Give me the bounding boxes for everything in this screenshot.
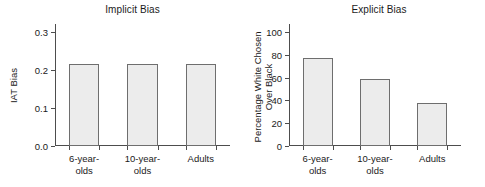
bar [186, 64, 216, 146]
bar [417, 103, 447, 146]
x-axis-label-line: olds [55, 165, 113, 177]
y-tick-label: 0 [277, 141, 282, 152]
y-tick-label: 0.0 [35, 141, 48, 152]
chart-panel-implicit-bias: Implicit Bias IAT Bias 6-year-olds10-yea… [0, 0, 243, 187]
x-tick-mark [390, 146, 391, 150]
x-axis-label-line: olds [113, 165, 171, 177]
x-axis-label-line: 10-year- [113, 153, 171, 165]
y-tick-mark [51, 108, 55, 109]
x-axis-label-line: Adults [172, 153, 230, 165]
x-tick-mark [69, 146, 70, 150]
y-tick-label: 0.2 [35, 64, 48, 75]
bar [303, 58, 333, 146]
chart-title-explicit: Explicit Bias [243, 4, 485, 15]
y-axis-label-line-1: Percentage White Chosen [252, 27, 263, 147]
chart-panel-explicit-bias: Explicit Bias Percentage White Chosen Ov… [243, 0, 485, 187]
y-tick-mark [285, 146, 289, 147]
x-axis-label-line: 6-year- [289, 153, 346, 165]
x-axis-label: 6-year-olds [289, 153, 346, 176]
plot-area-explicit: 6-year-olds10-year-oldsAdults 0204060801… [289, 24, 461, 146]
y-tick-mark [285, 55, 289, 56]
y-tick-mark [285, 78, 289, 79]
y-tick-label: 0.3 [35, 26, 48, 37]
x-axis-label: 6-year-olds [55, 153, 113, 176]
x-tick-mark [99, 146, 100, 150]
x-tick-mark [158, 146, 159, 150]
y-tick-label: 0.1 [35, 102, 48, 113]
x-axis-label: Adults [404, 153, 461, 165]
y-tick-label: 40 [271, 95, 282, 106]
y-tick-label: 100 [266, 26, 282, 37]
x-axis-label: Adults [172, 153, 230, 165]
x-axis-label-line: Adults [404, 153, 461, 165]
bar-series-explicit [289, 24, 461, 146]
x-axis-labels-implicit: 6-year-olds10-year-oldsAdults [55, 153, 230, 187]
y-tick-mark [285, 123, 289, 124]
y-axis-label-explicit: Percentage White Chosen Over Black [252, 27, 274, 147]
y-tick-mark [51, 146, 55, 147]
x-tick-mark [127, 146, 128, 150]
x-axis-label: 10-year-olds [346, 153, 403, 176]
y-tick-mark [285, 100, 289, 101]
bar [127, 64, 157, 146]
y-tick-mark [51, 32, 55, 33]
y-tick-mark [51, 70, 55, 71]
figure: Implicit Bias IAT Bias 6-year-olds10-yea… [0, 0, 485, 187]
plot-area-implicit: 6-year-olds10-year-oldsAdults 0.00.10.20… [55, 24, 230, 146]
x-axis-label-line: 10-year- [346, 153, 403, 165]
chart-title-implicit: Implicit Bias [0, 4, 243, 15]
x-tick-mark [333, 146, 334, 150]
y-tick-label: 60 [271, 72, 282, 83]
bar-series-implicit [55, 24, 230, 146]
x-axis-label: 10-year-olds [113, 153, 171, 176]
x-axis-labels-explicit: 6-year-olds10-year-oldsAdults [289, 153, 461, 187]
x-axis-label-line: olds [289, 165, 346, 177]
y-tick-label: 80 [271, 49, 282, 60]
x-tick-mark [417, 146, 418, 150]
x-tick-mark [186, 146, 187, 150]
x-tick-mark [216, 146, 217, 150]
x-tick-mark [447, 146, 448, 150]
x-axis-label-line: olds [346, 165, 403, 177]
x-tick-mark [303, 146, 304, 150]
x-tick-mark [360, 146, 361, 150]
bar [69, 64, 99, 146]
y-axis-label-line-2: Over Black [263, 27, 274, 147]
y-tick-mark [285, 32, 289, 33]
x-axis-label-line: 6-year- [55, 153, 113, 165]
bar [360, 79, 390, 146]
y-axis-label-implicit: IAT Bias [8, 46, 19, 126]
y-tick-label: 20 [271, 118, 282, 129]
